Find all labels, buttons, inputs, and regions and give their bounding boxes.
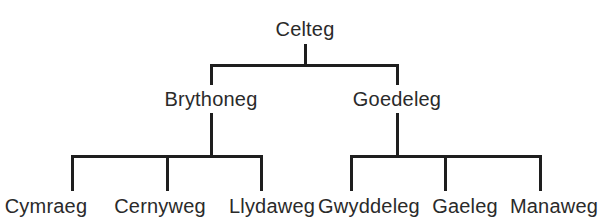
- language-family-tree: Celteg Brythoneg Goedeleg Cymraeg Cernyw…: [0, 0, 599, 220]
- node-manaweg: Manaweg: [510, 196, 598, 216]
- connector-root-bar: [210, 64, 399, 67]
- node-goedeleg: Goedeleg: [353, 89, 441, 109]
- connector-root-stem: [304, 44, 307, 66]
- connector-to-gwyddeleg: [350, 155, 353, 191]
- node-cymraeg: Cymraeg: [5, 196, 88, 216]
- node-brythoneg: Brythoneg: [165, 89, 258, 109]
- connector-to-brythoneg: [210, 64, 213, 85]
- connector-to-llydaweg: [260, 155, 263, 191]
- connector-to-manaweg: [539, 155, 542, 191]
- connector-to-gaeleg: [444, 155, 447, 191]
- connector-goedeleg-stem: [396, 113, 399, 157]
- node-gaeleg: Gaeleg: [432, 196, 498, 216]
- node-llydaweg: Llydaweg: [229, 196, 315, 216]
- node-celteg: Celteg: [275, 19, 334, 39]
- connector-to-cymraeg: [71, 155, 74, 191]
- connector-to-cernyweg: [166, 155, 169, 191]
- connector-to-goedeleg: [396, 64, 399, 85]
- node-cernyweg: Cernyweg: [114, 196, 206, 216]
- node-gwyddeleg: Gwyddeleg: [318, 196, 420, 216]
- connector-brythoneg-stem: [210, 113, 213, 157]
